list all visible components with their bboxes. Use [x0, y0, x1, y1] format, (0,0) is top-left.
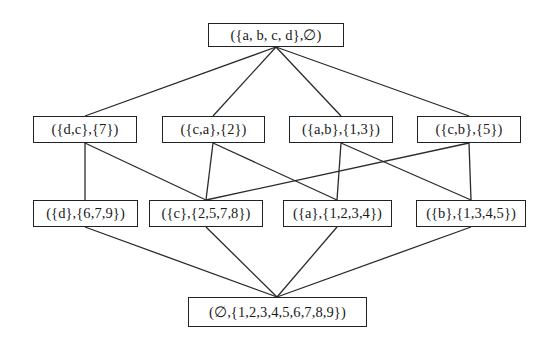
node-label: ({c},{2,5,7,8}) [162, 205, 251, 222]
node-label: ({d,c},{7}) [52, 121, 119, 138]
lattice-edges [0, 0, 556, 347]
edge-ca-a [213, 143, 337, 200]
node-a-concept: ({a},{1,2,3,4}) [283, 200, 392, 227]
node-label: (∅,{1,2,3,4,5,6,7,8,9}) [209, 304, 346, 321]
node-cb-concept: ({c,b},{5}) [417, 116, 521, 143]
edge-ab-b [341, 143, 471, 200]
node-c-concept: ({c},{2,5,7,8}) [149, 200, 263, 227]
node-ab-concept: ({a,b},{1,3}) [289, 116, 393, 143]
node-bottom-concept: (∅,{1,2,3,4,5,6,7,8,9}) [188, 297, 367, 327]
edge-top-ca [213, 47, 276, 116]
edge-b-bottom [277, 227, 471, 297]
node-top-concept: ({a, b, c, d},∅) [208, 23, 344, 47]
node-label: ({a, b, c, d},∅) [231, 27, 322, 44]
edge-ca-c [206, 143, 213, 200]
node-label: ({d},{6,7,9}) [46, 205, 125, 222]
edge-c-bottom [206, 227, 277, 297]
edge-cb-b [469, 143, 471, 200]
node-label: ({a,b},{1,3}) [302, 121, 380, 138]
node-label: ({c,b},{5}) [436, 121, 503, 138]
node-label: ({b},{1,3,4,5}) [426, 205, 516, 222]
edge-top-dc [85, 47, 276, 116]
node-d-concept: ({d},{6,7,9}) [33, 200, 138, 227]
edge-top-ab [276, 47, 341, 116]
edge-top-cb [276, 47, 469, 116]
node-b-concept: ({b},{1,3,4,5}) [416, 200, 526, 227]
node-label: ({a},{1,2,3,4}) [293, 205, 382, 222]
node-ca-concept: ({c,a},{2}) [162, 116, 265, 143]
node-dc-concept: ({d,c},{7}) [33, 116, 137, 143]
edge-dc-c [85, 143, 206, 200]
edge-d-bottom [85, 227, 277, 297]
node-label: ({c,a},{2}) [181, 121, 247, 138]
